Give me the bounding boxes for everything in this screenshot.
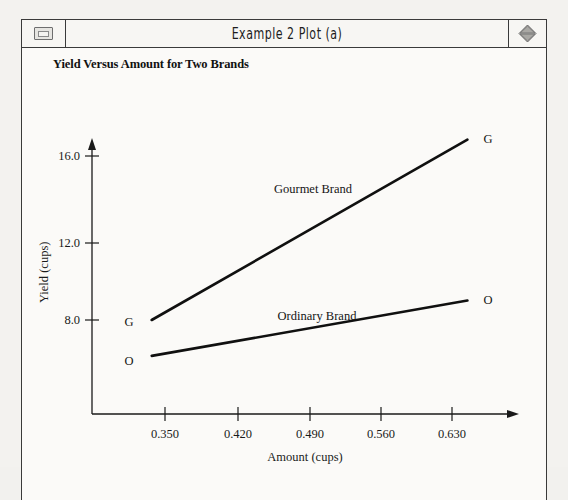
chart-svg: 16.0 12.0 8.0 Yield (cups) 0.350 0.420 0… xyxy=(22,48,546,500)
plot-canvas: Yield Versus Amount for Two Brands xyxy=(22,48,546,500)
x-axis-title: Amount (cups) xyxy=(267,450,342,464)
y-axis-title: Yield (cups) xyxy=(37,242,51,303)
y-tick-label: 8.0 xyxy=(64,313,80,327)
window-box-button[interactable] xyxy=(22,20,66,47)
x-tick-label: 0.630 xyxy=(438,427,466,441)
window-titlebar[interactable]: Example 2 Plot (a) xyxy=(22,20,546,48)
x-tick-label: 0.560 xyxy=(367,427,395,441)
window-box-icon xyxy=(34,27,53,40)
x-axis xyxy=(92,410,519,418)
zoom-button[interactable] xyxy=(508,20,546,47)
series-annotation-gourmet: Gourmet Brand xyxy=(274,182,353,196)
x-tick-label: 0.350 xyxy=(151,427,179,441)
y-tick-label: 16.0 xyxy=(58,149,80,163)
x-axis-arrow xyxy=(507,410,519,418)
x-tick-label: 0.420 xyxy=(224,427,252,441)
y-axis-arrow xyxy=(88,138,96,150)
marker-label-gourmet-right: G xyxy=(483,132,492,146)
series-layer xyxy=(152,140,468,356)
window-title: Example 2 Plot (a) xyxy=(106,20,468,47)
plot-window: Example 2 Plot (a) Yield Versus Amount f… xyxy=(21,19,547,500)
y-axis xyxy=(88,138,96,414)
marker-label-gourmet-left: G xyxy=(124,315,133,329)
marker-label-ordinary-left: O xyxy=(124,354,133,368)
x-tick-label: 0.490 xyxy=(296,427,324,441)
marker-label-ordinary-right: O xyxy=(483,293,492,307)
series-annotation-ordinary: Ordinary Brand xyxy=(278,309,358,323)
y-tick-label: 12.0 xyxy=(58,236,80,250)
series-line-gourmet-brand xyxy=(152,140,468,320)
diamond-zoom-icon xyxy=(518,24,537,43)
